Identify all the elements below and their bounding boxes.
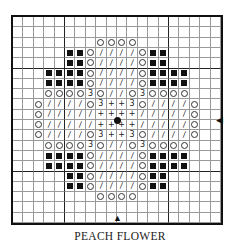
grid-cell <box>169 69 179 79</box>
grid-cell <box>138 130 148 140</box>
slash-icon: / <box>151 121 154 129</box>
grid-cell: / <box>159 120 169 130</box>
circle-icon <box>87 80 94 87</box>
grid-cell <box>148 151 158 161</box>
slash-icon: / <box>47 131 50 139</box>
grid-cell <box>13 48 23 58</box>
circle-icon <box>87 173 94 180</box>
grid-cell <box>179 48 189 58</box>
slash-icon: / <box>78 110 81 118</box>
filled-square-icon <box>56 153 62 159</box>
grid-cell <box>75 182 85 192</box>
grid-cell <box>190 202 200 212</box>
center-row-arrow-icon: ◀ <box>216 115 223 125</box>
grid-cell: / <box>148 130 158 140</box>
slash-icon: / <box>110 69 113 77</box>
grid-cell <box>190 69 200 79</box>
circle-icon <box>181 142 188 149</box>
grid-cell <box>190 48 200 58</box>
slash-icon: / <box>172 121 175 129</box>
filled-square-icon <box>77 50 83 56</box>
grid-cell <box>34 69 44 79</box>
slash-icon: / <box>47 121 50 129</box>
grid-cell <box>200 141 210 151</box>
cross-stitch-chart: ////////////////3//3////3++3/////////+++… <box>11 15 223 225</box>
slash-icon: / <box>130 182 133 190</box>
grid-cell: / <box>55 130 65 140</box>
circle-icon <box>35 131 42 138</box>
grid-cell <box>138 151 148 161</box>
circle-icon <box>97 39 104 46</box>
grid-cell <box>117 192 127 202</box>
grid-cell <box>148 17 158 27</box>
grid-cell <box>148 192 158 202</box>
grid-cell: / <box>65 130 75 140</box>
filled-square-icon <box>150 173 156 179</box>
grid-cell <box>44 213 54 223</box>
grid-cell <box>44 192 54 202</box>
grid-cell <box>169 151 179 161</box>
slash-icon: / <box>110 59 113 67</box>
slash-icon: / <box>151 131 154 139</box>
grid-cell <box>13 141 23 151</box>
circle-icon <box>139 59 146 66</box>
grid-cell <box>55 172 65 182</box>
grid-cell <box>127 192 137 202</box>
grid-cell <box>23 151 33 161</box>
filled-square-icon <box>67 70 73 76</box>
grid-cell <box>55 161 65 171</box>
circle-icon <box>87 101 94 108</box>
grid-cell <box>13 110 23 120</box>
slash-icon: / <box>99 182 102 190</box>
grid-cell <box>138 17 148 27</box>
filled-square-icon <box>171 153 177 159</box>
filled-square-icon <box>46 163 52 169</box>
filled-square-icon <box>181 163 187 169</box>
grid-cell <box>86 69 96 79</box>
slash-icon: / <box>99 172 102 180</box>
grid-cell <box>211 48 221 58</box>
slash-icon: / <box>151 100 154 108</box>
grid-cell: / <box>107 151 117 161</box>
grid-cell: / <box>138 110 148 120</box>
filled-square-icon <box>77 80 83 86</box>
circle-icon <box>77 90 84 97</box>
filled-square-icon <box>160 163 166 169</box>
grid-cell: + <box>107 99 117 109</box>
slash-icon: / <box>47 100 50 108</box>
grid-cell <box>96 192 106 202</box>
grid-cell <box>138 27 148 37</box>
grid-cell: / <box>169 130 179 140</box>
grid-cell <box>169 192 179 202</box>
slash-icon: / <box>99 162 102 170</box>
slash-icon: / <box>110 90 113 98</box>
grid-cell <box>127 27 137 37</box>
grid-cell <box>34 130 44 140</box>
grid-cell <box>86 192 96 202</box>
grid-cell <box>190 151 200 161</box>
grid-cell <box>96 27 106 37</box>
grid-cell <box>65 89 75 99</box>
grid-cell <box>200 69 210 79</box>
circle-icon <box>87 152 94 159</box>
grid-cell <box>86 161 96 171</box>
grid-cell <box>190 17 200 27</box>
grid-cell <box>65 182 75 192</box>
grid-cell <box>75 172 85 182</box>
grid-cell <box>13 17 23 27</box>
grid-cell <box>200 172 210 182</box>
grid-cell <box>211 161 221 171</box>
grid-cell: / <box>96 161 106 171</box>
grid-cell: / <box>107 48 117 58</box>
grid-cell: / <box>86 110 96 120</box>
grid-cell <box>13 213 23 223</box>
grid-cell <box>169 27 179 37</box>
grid-cell <box>55 141 65 151</box>
grid-cell <box>148 161 158 171</box>
grid-cell <box>190 192 200 202</box>
filled-square-icon <box>181 153 187 159</box>
grid-cell <box>65 27 75 37</box>
grid-cell <box>190 58 200 68</box>
grid-cell <box>23 172 33 182</box>
grid-cell <box>107 202 117 212</box>
